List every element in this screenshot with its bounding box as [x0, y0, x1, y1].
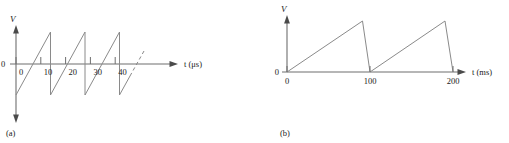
panel-a-caption: (a) [6, 128, 16, 138]
figure-container: V 0 0 10 20 30 40 t (μs) (a) V 0 0 [0, 0, 509, 143]
panel-b-xtick-label-0: 0 [285, 76, 289, 86]
panel-a-origin-label: 0 [1, 59, 5, 69]
panel-b-x-axis-arrow [458, 69, 467, 75]
panel-b-y-axis-arrow-up [284, 15, 290, 24]
panel-a-x-axis-arrow [170, 61, 179, 67]
panel-b-caption: (b) [280, 128, 290, 138]
panel-a-xtick-label-10: 10 [44, 67, 53, 77]
panel-b-chart: V 0 0 100 200 t (ms) (b) [254, 0, 509, 143]
panel-b-origin-label: 0 [275, 67, 279, 77]
panel-a-y-axis-arrow-up [13, 25, 19, 34]
panel-b-waveform [287, 21, 453, 72]
panel-a-y-axis-label: V [10, 14, 17, 24]
panel-a-xtick-label-0: 0 [19, 67, 23, 77]
panel-b-xtick-label-100: 100 [364, 76, 377, 86]
panel-b-y-axis-label: V [281, 4, 288, 14]
panel-a-xtick-label-20: 20 [69, 67, 78, 77]
panel-a-x-axis-label: t (μs) [184, 59, 202, 69]
panel-a-xtick-label-40: 40 [118, 67, 127, 77]
panel-a-xtick-label-30: 30 [93, 67, 102, 77]
panel-b-x-axis-label: t (ms) [472, 67, 492, 77]
panel-b-xtick-label-200: 200 [447, 76, 460, 86]
panel-a-chart: V 0 0 10 20 30 40 t (μs) (a) [0, 0, 254, 143]
panel-a-y-axis-arrow-down [13, 115, 19, 124]
